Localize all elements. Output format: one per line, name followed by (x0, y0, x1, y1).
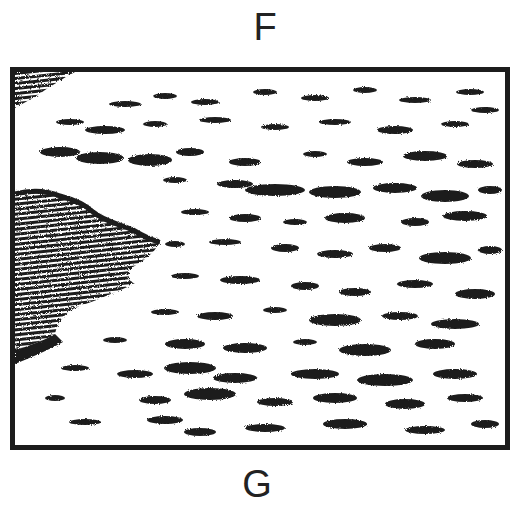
label-f: F (245, 8, 285, 46)
sea-waves-illustration (15, 72, 505, 445)
illustration-frame (10, 67, 510, 450)
label-g: G (237, 465, 277, 503)
shore-top-left (15, 72, 75, 108)
shore-left (15, 191, 160, 364)
